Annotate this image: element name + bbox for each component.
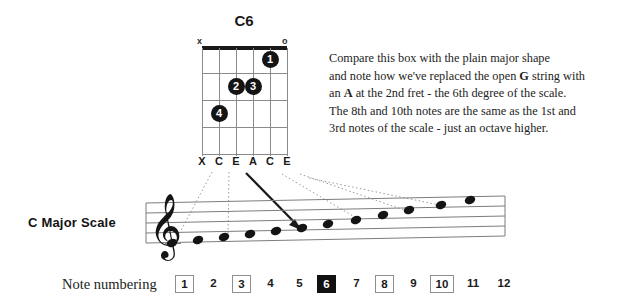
notehead-11 <box>434 199 447 210</box>
note-number-12[interactable]: 12 <box>492 275 516 293</box>
notehead-4 <box>243 228 256 239</box>
description-line-3-text-b: at the 2nd fret - the 6th degree of the … <box>353 86 567 100</box>
note-number-2[interactable]: 2 <box>204 275 223 293</box>
note-numbering-row: Note numbering 1 2 3 4 5 6 7 8 9 10 11 1… <box>0 275 623 297</box>
description-line-4-text: The 8th and 10th notes are the same as t… <box>329 104 576 118</box>
finger-dot-4: 4 <box>211 105 228 122</box>
chord-note-letters: X C E A C E <box>186 155 302 171</box>
string-line-5 <box>219 48 220 156</box>
finger-dot-2: 2 <box>228 78 245 95</box>
description-line-4: The 8th and 10th notes are the same as t… <box>329 103 619 121</box>
note-number-4[interactable]: 4 <box>261 275 280 293</box>
note-number-10[interactable]: 10 <box>430 275 454 293</box>
notehead-9 <box>376 209 389 220</box>
description-line-1-text: Compare this box with the plain major sh… <box>329 51 550 65</box>
nut-line <box>202 46 287 50</box>
description-line-5: 3rd notes of the scale - just an octave … <box>329 120 619 138</box>
staff-line-3 <box>146 216 505 223</box>
connector-e-to-note10 <box>300 174 410 212</box>
chord-note-letter-6: X <box>195 155 209 167</box>
string-line-1 <box>287 48 288 156</box>
note-number-9[interactable]: 9 <box>404 275 423 293</box>
notehead-8 <box>349 214 362 225</box>
staff-line-5 <box>146 196 505 203</box>
description-line-3: an A at the 2nd fret - the 6th degree of… <box>329 85 619 103</box>
staff-label: C Major Scale <box>28 215 116 230</box>
string-line-6 <box>202 48 203 156</box>
chord-note-letter-5: C <box>212 155 226 167</box>
note-number-5[interactable]: 5 <box>290 275 309 293</box>
finger-dot-3: 3 <box>245 78 262 95</box>
string-line-4 <box>236 48 237 156</box>
connector-e-to-note3 <box>228 172 229 236</box>
connector-c-to-note8 <box>282 174 358 219</box>
connector-lines <box>176 172 444 240</box>
description-line-2-text-a: and note how we've replaced the open <box>329 69 519 83</box>
connector-e-to-note11 <box>309 178 444 206</box>
staff-lines <box>146 196 505 243</box>
fret-line-1 <box>202 73 287 74</box>
description-line-1: Compare this box with the plain major sh… <box>329 50 619 68</box>
note-number-6[interactable]: 6 <box>317 275 336 293</box>
note-numbering-label: Note numbering <box>62 276 157 293</box>
description-text: Compare this box with the plain major sh… <box>329 50 619 138</box>
staff-line-2 <box>146 226 505 233</box>
note-number-7[interactable]: 7 <box>347 275 366 293</box>
chord-note-letter-3: A <box>246 155 260 167</box>
description-line-2-text-b: string with <box>529 69 585 83</box>
fret-line-3 <box>202 127 287 128</box>
chord-fretboard-grid: 1 2 3 4 <box>202 46 287 156</box>
staff-line-4 <box>146 206 505 213</box>
string-line-3 <box>253 48 254 156</box>
arrow-a-to-note6 <box>246 173 301 230</box>
muted-string-marker-x: x <box>197 36 202 46</box>
music-staff-graphic: 𝄞 <box>0 0 623 307</box>
notehead-3 <box>217 231 230 242</box>
notehead-6 <box>295 222 308 233</box>
chord-name-label: C6 <box>186 12 302 29</box>
note-number-8[interactable]: 8 <box>375 275 394 293</box>
note-name-g: G <box>519 69 529 83</box>
connector-c-to-note1 <box>176 172 212 240</box>
open-string-marker-o: o <box>282 36 288 46</box>
fret-line-2 <box>202 100 287 101</box>
diagram-page: C6 x o 1 2 3 4 X C E A C E <box>0 0 623 307</box>
note-number-11[interactable]: 11 <box>461 275 485 293</box>
notehead-2 <box>191 234 204 245</box>
note-number-1[interactable]: 1 <box>175 275 194 293</box>
notehead-10 <box>402 204 415 215</box>
notehead-1 <box>165 237 178 248</box>
finger-dot-1: 1 <box>262 51 279 68</box>
note-name-a: A <box>344 86 353 100</box>
notehead-7 <box>321 218 334 229</box>
notehead-5 <box>269 225 282 236</box>
chord-note-letter-1: E <box>280 155 294 167</box>
staff-noteheads <box>165 194 476 248</box>
treble-clef-icon: 𝄞 <box>149 193 182 261</box>
description-line-5-text: 3rd notes of the scale - just an octave … <box>329 121 548 135</box>
chord-note-letter-4: E <box>229 155 243 167</box>
notehead-12 <box>463 194 476 205</box>
note-number-3[interactable]: 3 <box>232 275 251 293</box>
description-line-3-text-a: an <box>329 86 344 100</box>
staff-line-1 <box>146 236 505 243</box>
chord-diagram: C6 x o 1 2 3 4 <box>186 12 302 162</box>
description-line-2: and note how we've replaced the open G s… <box>329 68 619 86</box>
chord-note-letter-2: C <box>263 155 277 167</box>
